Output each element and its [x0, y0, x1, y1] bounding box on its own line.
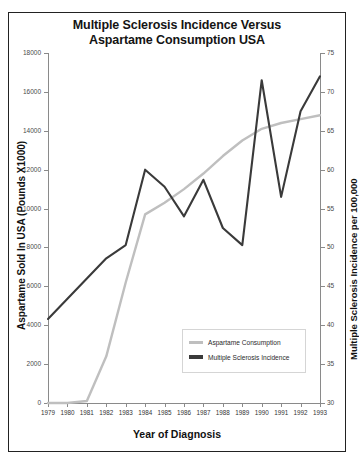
right-tick-label: 65	[327, 127, 353, 134]
legend-label-aspartame: Aspartame Consumption	[208, 339, 281, 346]
legend-swatch-ms-incidence	[189, 355, 203, 359]
right-tick	[321, 92, 325, 93]
right-tick-label: 35	[327, 360, 353, 367]
right-tick	[321, 325, 325, 326]
chart-title-line1: Multiple Sclerosis Incidence Versus	[73, 18, 281, 32]
right-tick-label: 60	[327, 166, 353, 173]
x-tick	[320, 403, 321, 407]
x-axis-title: Year of Diagnosis	[8, 428, 346, 440]
right-tick	[321, 170, 325, 171]
x-tick	[106, 403, 107, 407]
legend-item-ms-incidence: Multiple Sclerosis Incidence	[189, 351, 289, 363]
x-tick	[145, 403, 146, 407]
x-tick	[223, 403, 224, 407]
x-tick	[165, 403, 166, 407]
left-tick-label: 0	[11, 399, 41, 406]
x-tick	[262, 403, 263, 407]
right-tick	[321, 53, 325, 54]
legend-item-aspartame: Aspartame Consumption	[189, 336, 281, 348]
left-axis-title: Aspartame Sold In USA (Pounds X1000)	[16, 141, 27, 330]
left-tick-label: 14000	[11, 127, 41, 134]
legend-label-ms-incidence: Multiple Sclerosis Incidence	[208, 354, 289, 361]
left-tick-label: 16000	[11, 88, 41, 95]
x-tick	[301, 403, 302, 407]
right-tick-label: 70	[327, 88, 353, 95]
legend-swatch-aspartame	[189, 341, 203, 344]
left-tick-label: 2000	[11, 360, 41, 367]
right-tick	[321, 209, 325, 210]
series-line-ms-incidence	[48, 76, 320, 319]
top-edge-artifact: •	[186, 0, 191, 3]
right-tick	[321, 286, 325, 287]
chart-title-line2: Aspartame Consumption USA	[89, 33, 265, 47]
right-tick	[321, 364, 325, 365]
right-tick	[321, 247, 325, 248]
left-tick-label: 18000	[11, 49, 41, 56]
x-tick	[242, 403, 243, 407]
x-tick-label: 1993	[305, 409, 335, 416]
chart-title: Multiple Sclerosis Incidence Versus Aspa…	[8, 18, 346, 48]
x-tick	[87, 403, 88, 407]
x-tick	[203, 403, 204, 407]
right-tick	[321, 403, 325, 404]
x-tick	[281, 403, 282, 407]
right-axis-line	[320, 53, 321, 403]
right-tick-label: 30	[327, 399, 353, 406]
right-tick-label: 75	[327, 49, 353, 56]
right-axis-title: Multiple Sclerosis Incidence per 100,000	[348, 178, 359, 360]
x-tick	[126, 403, 127, 407]
right-tick	[321, 131, 325, 132]
chart-legend: Aspartame Consumption Multiple Sclerosis…	[182, 329, 306, 373]
x-tick	[184, 403, 185, 407]
